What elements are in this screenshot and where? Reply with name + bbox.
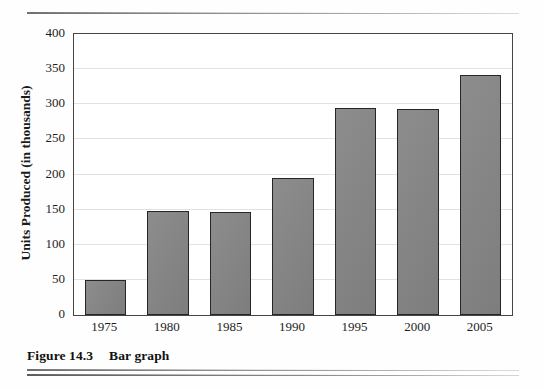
x-axis-tick-label-1995: 1995 [327,320,383,334]
y-axis-tick-label: 150 [25,202,65,215]
page-rule-bottom-2 [27,374,519,376]
page-rule-bottom-1 [27,369,519,371]
y-axis-tick-label: 100 [25,237,65,250]
figure-caption: Figure 14.3Bar graph [27,348,169,364]
figure-bar-graph: Units Produced (in thousands) 0501001502… [0,0,544,389]
x-axis-tick-label-1990: 1990 [264,320,320,334]
y-axis-tick-label: 250 [25,131,65,144]
y-axis-tick-label: 350 [25,61,65,74]
figure-caption-label: Figure 14.3 [27,348,93,363]
y-axis-tick-label: 400 [25,26,65,39]
page-rule-top [27,12,519,14]
x-axis-tick-label-1985: 1985 [201,320,257,334]
x-axis-tick-label-1975: 1975 [76,320,132,334]
y-axis-ticks: 050100150200250300350400 [73,33,513,316]
y-axis-tick-label: 50 [25,272,65,285]
figure-caption-title: Bar graph [109,348,169,363]
y-axis-tick-label: 200 [25,167,65,180]
x-axis-tick-label-1980: 1980 [139,320,195,334]
x-axis-tick-label-2005: 2005 [452,320,508,334]
x-axis-tick-label-2000: 2000 [389,320,445,334]
y-axis-tick-label: 300 [25,96,65,109]
y-axis-tick-label: 0 [25,307,65,320]
